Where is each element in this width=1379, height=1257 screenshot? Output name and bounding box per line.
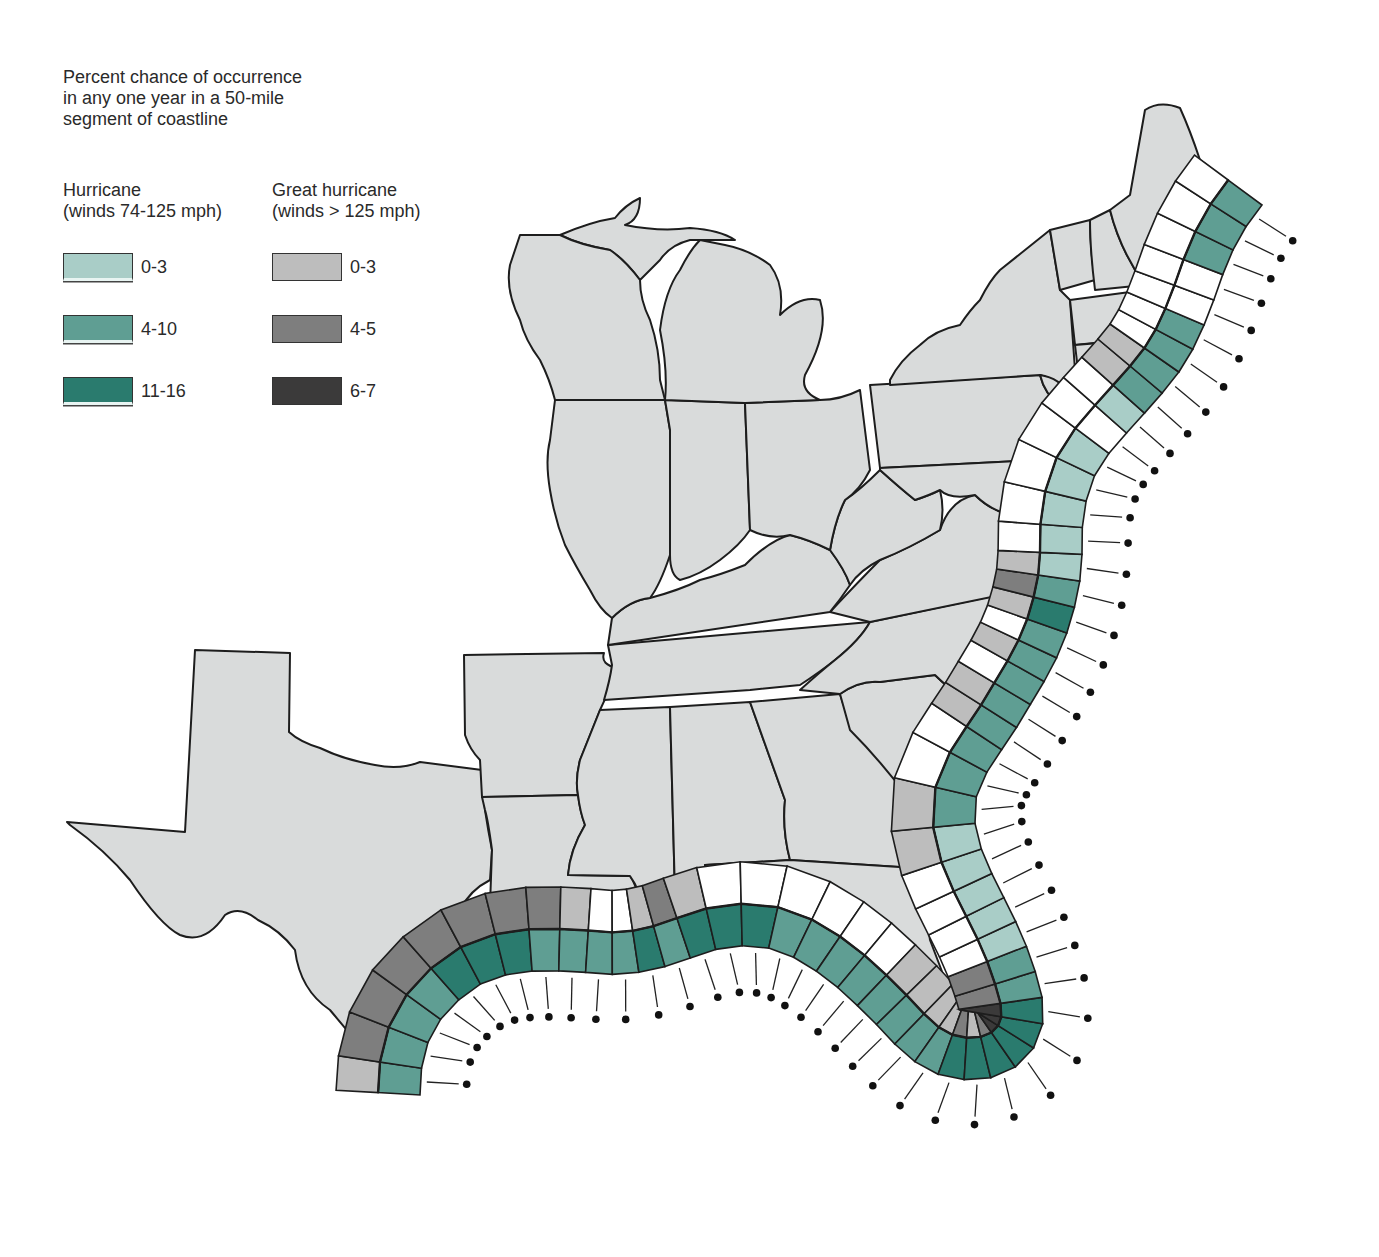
coast-point-dot	[1084, 1014, 1092, 1022]
coast-leader-line	[1088, 541, 1120, 543]
coast-leader-line	[756, 953, 757, 985]
state-indiana	[665, 400, 750, 580]
coast-point-dot	[1018, 802, 1026, 810]
coast-point-dot	[1018, 818, 1026, 826]
coast-leader-line	[1042, 696, 1069, 712]
coast-leader-line	[546, 977, 548, 1009]
coast-point-dot	[1126, 514, 1134, 522]
coast-leader-line	[571, 978, 572, 1010]
coast-point-dot	[1124, 539, 1132, 547]
coast-point-dot	[545, 1013, 553, 1021]
state-illinois	[548, 400, 671, 618]
coast-leader-line	[496, 985, 511, 1013]
coast-leader-line	[1214, 315, 1244, 328]
coast-leader-line	[905, 1073, 923, 1099]
coast-leader-line	[1000, 764, 1028, 779]
coast-point-dot	[1035, 861, 1043, 869]
coast-point-dot	[1131, 495, 1139, 503]
coast-point-dot	[753, 989, 761, 997]
great-hurricane-segment	[526, 887, 561, 929]
coast-leader-line	[1048, 1012, 1080, 1017]
coast-point-dot	[511, 1016, 519, 1024]
coast-leader-line	[841, 1019, 863, 1042]
coast-point-dot	[814, 1028, 822, 1036]
coast-leader-line	[1029, 719, 1056, 736]
coast-point-dot	[1073, 713, 1081, 721]
coast-leader-line	[859, 1038, 882, 1060]
coast-point-dot	[1087, 688, 1095, 696]
hurricane-segment	[1040, 524, 1082, 554]
coast-point-dot	[1073, 1057, 1081, 1065]
coast-point-dot	[1025, 838, 1033, 846]
coast-leader-line	[1234, 264, 1264, 276]
coast-leader-line	[982, 806, 1014, 809]
coast-leader-line	[1175, 386, 1200, 407]
coast-leader-line	[1090, 515, 1122, 517]
state-michigan-lower	[660, 240, 823, 403]
great-hurricane-segment	[998, 521, 1040, 552]
coast-point-dot	[1247, 327, 1255, 335]
coast-point-dot	[736, 989, 744, 997]
coast-leader-line	[1191, 364, 1217, 382]
coast-leader-line	[938, 1083, 949, 1113]
coast-point-dot	[1080, 974, 1088, 982]
coast-point-dot	[496, 1023, 504, 1031]
coast-point-dot	[1031, 779, 1039, 787]
coast-point-dot	[1151, 467, 1159, 475]
coast-leader-line	[788, 970, 802, 999]
coast-point-dot	[1267, 275, 1275, 283]
coast-point-dot	[526, 1014, 534, 1022]
coast-leader-line	[1005, 1078, 1013, 1109]
hurricane-segment	[1038, 552, 1082, 581]
coast-leader-line	[679, 968, 688, 999]
coast-leader-line	[1123, 447, 1149, 466]
coast-point-dot	[622, 1016, 630, 1024]
coast-point-dot	[1123, 571, 1131, 579]
coast-point-dot	[592, 1016, 600, 1024]
coast-leader-line	[455, 1013, 481, 1032]
coast-leader-line	[1014, 742, 1041, 760]
coast-leader-line	[1224, 289, 1254, 300]
coast-point-dot	[1184, 430, 1192, 438]
coast-leader-line	[1087, 569, 1119, 574]
coast-point-dot	[1235, 355, 1243, 363]
coast-point-dot	[714, 993, 722, 1001]
coast-point-dot	[655, 1011, 663, 1019]
coast-leader-line	[1140, 427, 1164, 448]
coast-point-dot	[473, 1044, 481, 1052]
coast-leader-line	[427, 1082, 459, 1084]
coast-point-dot	[1047, 1092, 1055, 1100]
coast-leader-line	[878, 1057, 900, 1080]
coast-point-dot	[831, 1045, 839, 1053]
coast-leader-line	[1003, 869, 1032, 883]
coast-point-dot	[1100, 661, 1108, 669]
coast-point-dot	[466, 1058, 474, 1066]
coast-point-dot	[932, 1116, 940, 1124]
coast-point-dot	[971, 1121, 979, 1129]
coast-point-dot	[463, 1080, 471, 1088]
coast-point-dot	[1048, 887, 1056, 895]
coast-leader-line	[440, 1033, 470, 1045]
coast-point-dot	[797, 1014, 805, 1022]
coast-leader-line	[431, 1056, 463, 1061]
coast-point-dot	[1202, 408, 1210, 416]
coast-point-dot	[1023, 791, 1031, 799]
coast-leader-line	[474, 997, 495, 1021]
coast-leader-line	[1045, 979, 1077, 984]
coast-leader-line	[1027, 920, 1057, 932]
coast-point-dot	[1220, 383, 1228, 391]
coast-leader-line	[1204, 340, 1232, 355]
hurricane-segment	[529, 929, 560, 971]
coast-leader-line	[1056, 673, 1084, 689]
coast-point-dot	[1058, 737, 1066, 745]
coast-leader-line	[975, 1085, 977, 1117]
coast-leader-line	[987, 786, 1018, 793]
coast-leader-line	[1245, 241, 1274, 255]
coast-leader-line	[1076, 622, 1106, 633]
coast-point-dot	[1166, 450, 1174, 458]
coast-leader-line	[705, 959, 715, 989]
coast-point-dot	[781, 1002, 789, 1010]
coast-point-dot	[767, 994, 775, 1002]
coast-leader-line	[1028, 1063, 1046, 1089]
coast-leader-line	[1259, 219, 1286, 236]
